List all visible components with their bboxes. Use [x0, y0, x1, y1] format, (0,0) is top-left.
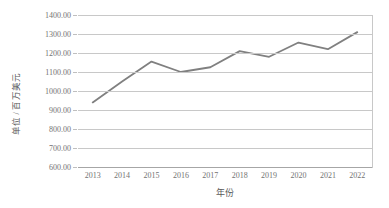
- gridline: [78, 129, 372, 130]
- plot-area: [78, 15, 372, 167]
- y-tick-label: 1200.00: [27, 49, 71, 58]
- x-tick-label: 2016: [173, 171, 189, 180]
- gridline: [78, 15, 372, 16]
- y-tick-mark: [73, 72, 77, 73]
- x-tick-label: 2015: [144, 171, 160, 180]
- y-tick-label: 1300.00: [27, 30, 71, 39]
- gridline: [78, 34, 372, 35]
- x-tick-label: 2017: [202, 171, 218, 180]
- gridline: [78, 148, 372, 149]
- y-tick-mark: [73, 91, 77, 92]
- y-tick-mark: [73, 15, 77, 16]
- x-tick-label: 2019: [261, 171, 277, 180]
- x-tick-label: 2014: [114, 171, 130, 180]
- line-chart: 单位 / 百万美元 1400.001300.001200.001100.0010…: [0, 0, 389, 208]
- gridline: [78, 110, 372, 111]
- gridline: [78, 53, 372, 54]
- y-tick-mark: [73, 167, 77, 168]
- gridline: [78, 91, 372, 92]
- y-tick-mark: [73, 110, 77, 111]
- plot-right-border: [372, 15, 373, 168]
- y-tick-label: 900.00: [27, 106, 71, 115]
- y-tick-mark: [73, 148, 77, 149]
- y-tick-label: 700.00: [27, 144, 71, 153]
- y-tick-mark: [73, 129, 77, 130]
- x-tick-label: 2022: [349, 171, 365, 180]
- y-tick-mark: [73, 53, 77, 54]
- x-tick-label: 2020: [291, 171, 307, 180]
- y-tick-mark: [73, 34, 77, 35]
- y-axis-title: 单位 / 百万美元: [0, 0, 30, 208]
- x-axis-line: [78, 167, 372, 168]
- y-tick-label: 600.00: [27, 163, 71, 172]
- y-tick-label: 1100.00: [27, 68, 71, 77]
- x-tick-label: 2021: [320, 171, 336, 180]
- x-axis-title: 年份: [78, 186, 372, 199]
- y-tick-label: 1400.00: [27, 11, 71, 20]
- x-tick-label: 2013: [85, 171, 101, 180]
- gridline: [78, 72, 372, 73]
- x-tick-label: 2018: [232, 171, 248, 180]
- y-tick-label: 1000.00: [27, 87, 71, 96]
- y-tick-label: 800.00: [27, 125, 71, 134]
